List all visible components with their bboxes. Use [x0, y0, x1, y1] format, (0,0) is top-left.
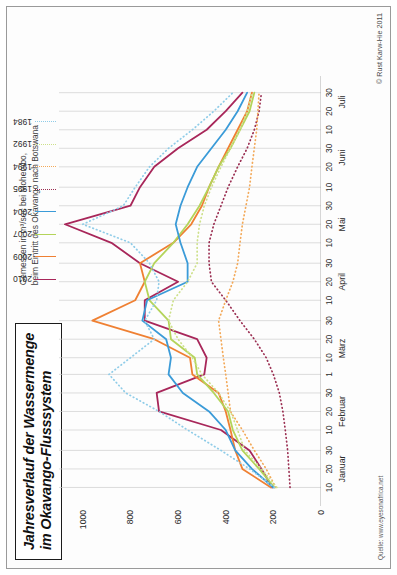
- x-tick-label: 20: [324, 162, 334, 171]
- legend-swatch-icon: [35, 189, 56, 190]
- series-line-1984: [83, 93, 275, 488]
- y-tick-label: 1000: [78, 510, 88, 540]
- legend-swatch-icon: [35, 257, 56, 258]
- y-tick-label: 400: [221, 510, 231, 540]
- legend-item: 1995: [13, 183, 56, 196]
- x-tick-label: 20: [324, 277, 334, 286]
- legend-item: 2007: [13, 228, 56, 241]
- x-tick-label: 30: [324, 259, 334, 268]
- x-tick-label: 30: [324, 201, 334, 210]
- legend-item-label: 2010: [13, 275, 32, 285]
- month-label: Juli: [337, 95, 347, 108]
- x-tick-label: 30: [324, 144, 334, 153]
- y-tick-label: 600: [173, 510, 183, 540]
- legend-item-label: 1995: [13, 185, 32, 195]
- x-tick-label: 10: [324, 483, 334, 492]
- month-label: Juni: [337, 149, 347, 165]
- legend-swatch-icon: [35, 279, 56, 280]
- x-tick-label: 10: [324, 125, 334, 134]
- month-label: März: [337, 339, 347, 359]
- plot-area: 0200400600800100010203010203011020301020…: [59, 76, 321, 506]
- legend-item-label: 2007: [13, 230, 32, 240]
- series-line-1995: [209, 93, 290, 488]
- legend-item: 2004: [13, 206, 56, 219]
- x-tick-label: 30: [324, 446, 334, 455]
- x-tick-label: 10: [324, 353, 334, 362]
- legend-item-label: 1984: [13, 117, 32, 127]
- x-tick-label: 30: [324, 316, 334, 325]
- x-tick-label: 10: [324, 296, 334, 305]
- y-tick-label: 200: [268, 510, 278, 540]
- chart-title-line2: im Okavango-Flusssystem: [38, 333, 55, 550]
- chart-title-line1: Jahresverlauf der Wassermenge: [21, 333, 38, 550]
- rotated-figure: Jahresverlauf der Wassermenge im Okavang…: [7, 7, 390, 568]
- chart-legend: 20102009200720041995199419921984: [13, 116, 56, 287]
- legend-swatch-icon: [35, 234, 56, 235]
- legend-item: 2009: [13, 251, 56, 264]
- y-tick-label: 800: [125, 510, 135, 540]
- figure-page: Jahresverlauf der Wassermenge im Okavang…: [0, 0, 397, 575]
- x-tick-label: 10: [324, 425, 334, 434]
- source-text: Quelle: www.eyesonafrica.net: [377, 476, 384, 560]
- x-tick-label: 30: [324, 88, 334, 97]
- month-label: Mai: [337, 217, 347, 231]
- legend-swatch-icon: [35, 122, 56, 123]
- x-tick-label: 20: [324, 335, 334, 344]
- legend-item: 2010: [13, 273, 56, 286]
- month-label: Februar: [337, 396, 347, 427]
- legend-item-label: 1992: [13, 140, 32, 150]
- x-tick-label: 30: [324, 388, 334, 397]
- legend-swatch-icon: [35, 167, 56, 168]
- x-tick-label: 10: [324, 238, 334, 247]
- month-label: April: [337, 273, 347, 291]
- x-tick-label: 20: [324, 220, 334, 229]
- legend-item: 1992: [13, 138, 56, 151]
- x-tick-label: 10: [324, 183, 334, 192]
- x-tick-label: 20: [324, 107, 334, 116]
- chart-svg: [59, 76, 321, 506]
- month-label: Januar: [337, 455, 347, 482]
- chart-title-box: Jahresverlauf der Wassermenge im Okavang…: [15, 323, 62, 560]
- legend-item-label: 2009: [13, 252, 32, 262]
- copyright-text: © Rust Karw-Hie 2011: [375, 13, 384, 84]
- legend-item-label: 1994: [13, 162, 32, 172]
- x-tick-label: 20: [324, 407, 334, 416]
- legend-item-label: 2004: [13, 207, 32, 217]
- legend-swatch-icon: [35, 212, 56, 213]
- legend-item: 1994: [13, 161, 56, 174]
- legend-swatch-icon: [35, 144, 56, 145]
- legend-item: 1984: [13, 116, 56, 129]
- x-tick-label: 1: [324, 372, 334, 377]
- x-tick-label: 20: [324, 464, 334, 473]
- y-tick-label: 0: [316, 510, 326, 540]
